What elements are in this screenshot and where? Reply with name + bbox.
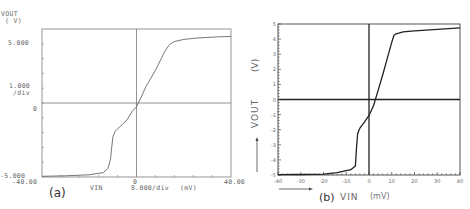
chart-b-xtick-label: 0: [361, 178, 377, 184]
chart-a-ytick-top: 5.000: [8, 39, 29, 47]
chart-a-xdiv: 8.000/div: [131, 184, 169, 192]
chart-b-ylabel: VOUT: [250, 99, 260, 128]
chart-b-ytick-label: 4: [262, 36, 276, 42]
chart-b-xtick-label: 40: [452, 178, 468, 184]
chart-b-ylabel-unit: (V): [250, 59, 260, 72]
chart-a-xtick-left: -40.00: [12, 178, 37, 186]
chart-b-ytick-label: 2: [262, 66, 276, 72]
chart-a-ydiv-suffix: /div: [13, 89, 30, 97]
chart-b-xtick-label: -40: [270, 178, 286, 184]
chart-a-ytick-zero: 0: [33, 105, 37, 113]
chart-b-ytick-label: -4: [262, 157, 276, 163]
chart-a-xunit: (mV): [180, 184, 197, 192]
chart-a-panel-label: (a): [49, 186, 66, 200]
chart-b-ytick-label: 0: [262, 97, 276, 103]
chart-b-ytick-label: 1: [262, 81, 276, 87]
chart-b-x-arrowhead: [309, 188, 313, 191]
chart-b-xtick-label: 10: [384, 178, 400, 184]
chart-b-xunit: (mV): [370, 192, 390, 201]
chart-b-ytick-label: -1: [262, 112, 276, 118]
chart-a-xlabel: VIN: [90, 184, 103, 192]
chart-b-xtick-label: -20: [316, 178, 332, 184]
chart-b-y-arrowhead: [256, 137, 259, 141]
chart-b-panel-label: (b): [319, 191, 335, 204]
chart-a-ylabel-unit: ( V): [5, 17, 22, 25]
chart-b-ytick-label: 5: [262, 21, 276, 27]
chart-a-xtick-right: 40.00: [224, 178, 245, 186]
chart-b-ytick-label: -2: [262, 127, 276, 133]
chart-b-xlabel: VIN: [340, 192, 359, 202]
chart-b-xtick-label: 30: [429, 178, 445, 184]
chart-b-xtick-label: -10: [338, 178, 354, 184]
chart-b-xtick-label: -30: [293, 178, 309, 184]
chart-b-ytick-label: -3: [262, 142, 276, 148]
chart-b-xtick-label: 20: [407, 178, 423, 184]
chart-b-ytick-label: 3: [262, 51, 276, 57]
